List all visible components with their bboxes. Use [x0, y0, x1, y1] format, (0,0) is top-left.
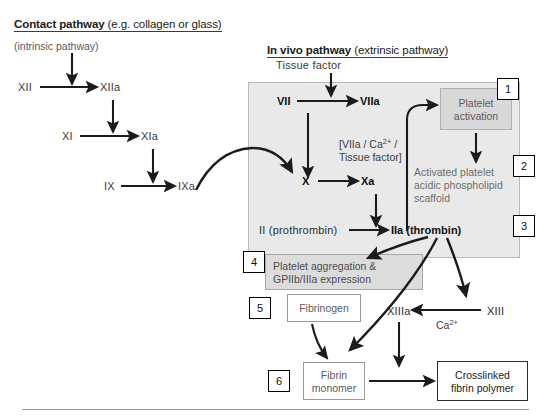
- coagulation-cascade-diagram: Contact pathway (e.g. collagen or glass)…: [0, 0, 551, 419]
- thrombin-label: IIa (thrombin): [391, 224, 461, 236]
- in-vivo-pathway-header: In vivo pathway (extrinsic pathway): [267, 40, 448, 58]
- crosslinked-fibrin-polymer-label: Crosslinked fibrin polymer: [438, 369, 527, 394]
- in-vivo-pathway-title: In vivo pathway: [267, 44, 351, 56]
- callout-1[interactable]: 1: [497, 78, 519, 100]
- contact-pathway-header: Contact pathway (e.g. collagen or glass): [14, 14, 222, 32]
- calcium-superscript: 2+: [449, 318, 458, 327]
- factor-x-label: X: [302, 175, 309, 187]
- viia-calcium-tissue-factor-complex-label: [VIIa / Ca2+ / Tissue factor]: [339, 138, 402, 164]
- tissue-factor-label: Tissue factor: [276, 59, 341, 71]
- factor-xiiia-label: XIIIa: [387, 305, 411, 317]
- factor-xii-label: XII: [18, 81, 32, 93]
- callout-5[interactable]: 5: [249, 297, 271, 319]
- fibrinogen-label: Fibrinogen: [288, 302, 360, 315]
- platelet-activation-label: Platelet activation: [441, 97, 511, 122]
- footer-divider: [22, 409, 529, 410]
- calcium-text: Ca: [436, 319, 449, 331]
- factor-xia-label: XIa: [141, 130, 158, 142]
- factor-ix-label: IX: [104, 180, 115, 192]
- complex-line-2: Tissue factor]: [339, 151, 402, 163]
- factor-xi-label: XI: [62, 130, 73, 142]
- fibrin-monomer-box: Fibrin monomer: [303, 362, 365, 400]
- factor-xa-label: Xa: [361, 175, 374, 187]
- factor-vii-label: VII: [277, 95, 290, 107]
- callout-6[interactable]: 6: [268, 370, 290, 392]
- factor-viia-label: VIIa: [360, 95, 380, 107]
- callout-3[interactable]: 3: [513, 215, 535, 237]
- callout-4[interactable]: 4: [243, 251, 265, 273]
- fibrinogen-box: Fibrinogen: [287, 294, 361, 322]
- fibrin-monomer-label: Fibrin monomer: [304, 369, 364, 394]
- platelet-aggregation-box: Platelet aggregation & GPIIb/IIIa expres…: [265, 254, 423, 290]
- contact-pathway-title: Contact pathway: [14, 18, 105, 30]
- factor-ixa-label: IXa: [178, 180, 195, 192]
- factor-xiii-label: XIII: [487, 305, 504, 317]
- intrinsic-pathway-label: (intrinsic pathway): [14, 40, 99, 52]
- crosslinked-fibrin-polymer-box: Crosslinked fibrin polymer: [437, 361, 528, 401]
- complex-line-1a: [VIIa / Ca: [339, 138, 383, 150]
- contact-pathway-subtitle: (e.g. collagen or glass): [105, 18, 222, 30]
- callout-2[interactable]: 2: [513, 155, 535, 177]
- complex-line-1b: /: [391, 138, 397, 150]
- calcium-label: Ca2+: [436, 319, 458, 331]
- extrinsic-pathway-subtitle: (extrinsic pathway): [351, 44, 448, 56]
- factor-xiia-label: XIIa: [100, 81, 120, 93]
- platelet-aggregation-label: Platelet aggregation & GPIIb/IIIa expres…: [273, 260, 418, 285]
- prothrombin-label: II (prothrombin): [259, 224, 337, 236]
- activated-platelet-scaffold-label: Activated platelet acidic phospholipid s…: [414, 166, 503, 205]
